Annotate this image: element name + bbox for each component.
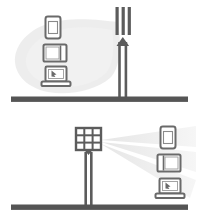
mast-left-rail — [84, 152, 87, 207]
laptop-base — [42, 82, 71, 87]
device-tablet-bottom — [158, 155, 181, 172]
phone-screen — [49, 22, 58, 34]
antenna-coverage-diagram: Omnidirectional Coverage vs. Beamforming… — [0, 0, 199, 215]
panel-omnidirectional — [11, 7, 188, 102]
tower-mast-bottom — [84, 150, 92, 207]
device-laptop-bottom — [156, 179, 185, 199]
laptop-screen — [163, 182, 178, 191]
antenna-rod-1 — [116, 7, 119, 35]
phone-screen — [164, 132, 173, 144]
device-laptop-top — [42, 67, 71, 87]
device-tablet-top — [44, 45, 67, 62]
ground-line-top — [11, 97, 188, 102]
tablet-screen — [165, 157, 178, 169]
array-panel-frame — [76, 128, 101, 150]
diagram-canvas — [0, 0, 199, 215]
ground-line-bottom — [11, 205, 188, 210]
laptop-screen — [49, 70, 64, 79]
mast-left-rail — [118, 42, 121, 99]
antenna-rod-3 — [128, 7, 131, 35]
laptop-base — [156, 194, 185, 199]
mast-right-rail — [125, 42, 128, 99]
device-smartphone-bottom — [161, 127, 176, 149]
antenna-rod-2 — [122, 7, 125, 35]
panel-array-antenna — [76, 128, 101, 150]
panel-beamforming — [11, 126, 196, 210]
mast-right-rail — [90, 152, 93, 207]
tower-mast-top — [118, 42, 127, 99]
tablet-screen — [46, 47, 59, 59]
device-smartphone-top — [46, 17, 61, 39]
